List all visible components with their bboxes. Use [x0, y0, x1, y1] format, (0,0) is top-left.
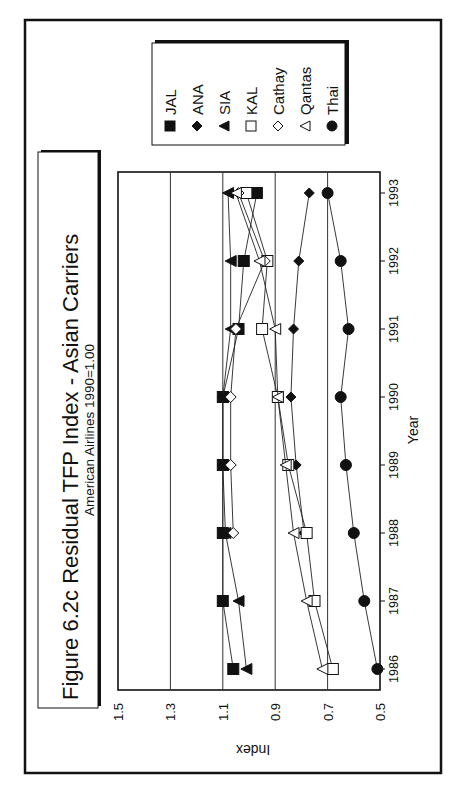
- legend-label: Cathay: [270, 67, 287, 115]
- year-tick-label: 1986: [387, 655, 401, 683]
- index-tick-label: 1.5: [111, 703, 126, 721]
- index-tick-label: 0.7: [321, 703, 336, 721]
- plot-frame: [118, 172, 380, 690]
- legend-label: JAL: [162, 89, 179, 115]
- index-tick-label: 1.1: [216, 703, 231, 721]
- series-ana: [286, 188, 314, 538]
- legend-label: Qantas: [297, 67, 314, 115]
- x-axis-label: Year: [405, 416, 421, 445]
- year-tick-label: 1989: [387, 451, 401, 479]
- index-tick-label: 1.3: [163, 703, 178, 721]
- year-tick-label: 1993: [387, 179, 401, 207]
- chart-title: Figure 6.2c Residual TFP Index - Asian C…: [58, 234, 83, 700]
- index-tick-label: 0.5: [373, 703, 388, 721]
- y-axis-label: Index: [236, 742, 270, 758]
- chart-subtitle: American Airlines 1990=1.00: [82, 344, 97, 516]
- legend-label: Thai: [324, 86, 341, 115]
- year-tick-label: 1991: [387, 315, 401, 343]
- year-tick-label: 1992: [387, 247, 401, 275]
- figure-page: Figure 6.2c Residual TFP Index - Asian C…: [0, 0, 465, 808]
- plot-area: 1.51.31.10.90.70.51986198719881989199019…: [111, 172, 401, 721]
- legend-label: SIA: [216, 91, 233, 115]
- legend-label: ANA: [189, 84, 206, 115]
- year-tick-label: 1990: [387, 383, 401, 411]
- year-tick-label: 1987: [387, 587, 401, 615]
- legend-label: KAL: [243, 87, 260, 115]
- rotated-line-chart: Figure 6.2c Residual TFP Index - Asian C…: [0, 0, 465, 808]
- index-tick-label: 0.9: [268, 703, 283, 721]
- year-tick-label: 1988: [387, 519, 401, 547]
- series-thai: [322, 188, 383, 675]
